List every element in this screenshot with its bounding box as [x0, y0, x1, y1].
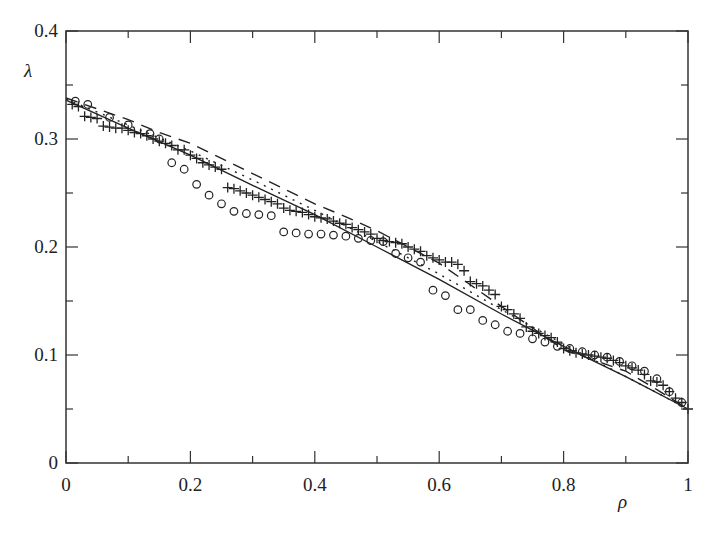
circle-marker: [255, 211, 263, 219]
circle-marker: [442, 292, 450, 300]
x-tick-label: 0.4: [303, 474, 327, 495]
plus-marker: [260, 194, 270, 204]
plus-marker: [465, 277, 475, 287]
x-tick-label: 0.8: [552, 474, 576, 495]
x-tick-label: 0: [61, 474, 71, 495]
plus-marker: [353, 225, 363, 235]
plus-marker: [453, 259, 463, 269]
plus-marker: [434, 255, 444, 265]
plus-marker: [484, 285, 494, 295]
circle-marker: [417, 258, 425, 266]
plus-marker: [478, 281, 488, 291]
circle-marker: [330, 231, 338, 239]
y-axis-label: λ: [23, 60, 32, 81]
y-axis-tick-labels: 00.10.20.30.4: [34, 20, 58, 473]
plus-marker: [304, 210, 314, 220]
circle-marker: [193, 181, 201, 189]
x-axis-tick-labels: 00.20.40.60.81: [61, 474, 693, 495]
plus-marker: [391, 238, 401, 248]
circle-marker: [479, 317, 487, 325]
plus-marker: [285, 205, 295, 215]
x-tick-label: 1: [683, 474, 693, 495]
circle-marker: [267, 212, 275, 220]
x-tick-label: 0.2: [179, 474, 203, 495]
circle-marker: [243, 210, 251, 218]
y-tick-label: 0.1: [34, 344, 58, 365]
plus-marker: [279, 203, 289, 213]
circle-marker: [516, 330, 524, 338]
circle-marker: [292, 229, 300, 237]
plus-marker-series: [67, 99, 693, 414]
plus-marker: [86, 112, 96, 122]
plus-marker: [254, 192, 264, 202]
plus-marker: [384, 237, 394, 247]
plus-marker: [366, 229, 376, 239]
plus-marker: [136, 129, 146, 139]
circle-marker: [342, 232, 350, 240]
plus-marker: [204, 160, 214, 170]
chart: 00.20.40.60.81 00.10.20.30.4 ρ λ: [0, 0, 711, 534]
plus-marker: [235, 186, 245, 196]
plus-marker: [459, 266, 469, 276]
circle-marker: [317, 230, 325, 238]
circle-marker: [218, 200, 226, 208]
circle-marker: [504, 327, 512, 335]
plus-marker: [266, 197, 276, 207]
x-tick-label: 0.6: [427, 474, 451, 495]
plus-marker: [80, 111, 90, 121]
y-tick-label: 0.2: [34, 236, 58, 257]
plus-marker: [210, 162, 220, 172]
x-axis-label: ρ: [617, 491, 627, 512]
circle-marker: [280, 228, 288, 236]
plus-marker: [105, 122, 115, 132]
y-tick-label: 0: [49, 452, 59, 473]
plus-marker: [241, 188, 251, 198]
solid-line-series: [66, 100, 688, 409]
plus-marker: [223, 183, 233, 193]
plus-marker: [229, 184, 239, 194]
circle-marker: [230, 208, 238, 216]
circle-marker: [180, 165, 188, 173]
circle-marker: [205, 191, 213, 199]
circle-marker: [305, 230, 313, 238]
circle-marker: [429, 286, 437, 294]
plus-marker: [297, 207, 307, 217]
y-tick-label: 0.4: [34, 20, 58, 41]
circle-marker: [467, 306, 475, 314]
plus-marker: [316, 213, 326, 223]
circle-marker: [454, 306, 462, 314]
plus-marker: [272, 199, 282, 209]
series-layer: [66, 97, 693, 414]
plus-marker: [248, 190, 258, 200]
circle-marker: [491, 321, 499, 329]
plus-marker: [335, 218, 345, 228]
y-tick-label: 0.3: [34, 128, 58, 149]
plus-marker: [490, 290, 500, 300]
plus-marker: [447, 257, 457, 267]
circle-marker: [168, 159, 176, 167]
plus-marker: [98, 121, 108, 131]
